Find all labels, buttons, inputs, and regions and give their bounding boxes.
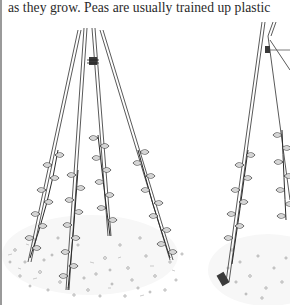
body-text-line: as they grow. Peas are usually trained u… [8,0,290,16]
right-teepee [208,22,290,305]
left-teepee [2,28,183,297]
book-page: as they grow. Peas are usually trained u… [0,0,290,305]
twine-tie-right [265,46,270,53]
soil-mulch-right [208,234,290,305]
pea-teepee-illustration [0,18,290,305]
